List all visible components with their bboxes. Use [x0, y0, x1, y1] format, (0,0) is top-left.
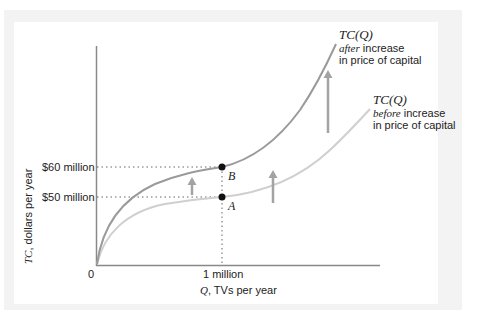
- point-a-marker: [219, 194, 226, 201]
- point-b-marker: [219, 164, 226, 171]
- point-a-label: A: [228, 200, 235, 212]
- legend-before-em: before: [373, 107, 401, 119]
- y-tick-50-million: $50 million: [42, 191, 95, 203]
- legend-after: TC(Q) after increase in price of capital: [339, 29, 422, 67]
- origin-label: 0: [88, 268, 94, 280]
- legend-before-line1: increase: [401, 107, 446, 119]
- x-tick-1-million: 1 million: [203, 268, 243, 280]
- legend-after-title: TC(Q): [339, 29, 422, 42]
- x-axis-units: , TVs per year: [208, 284, 277, 296]
- shift-arrow-small: [188, 177, 197, 195]
- point-b-label: B: [228, 170, 235, 182]
- shift-arrow-large: [324, 70, 333, 133]
- legend-before-line2: in price of capital: [373, 119, 456, 132]
- y-axis-variable: TC: [22, 251, 34, 264]
- legend-after-line1: increase: [360, 42, 405, 54]
- y-tick-60-million: $60 million: [42, 161, 95, 173]
- curve-after: [97, 44, 336, 264]
- x-axis-label: Q, TVs per year: [200, 284, 277, 296]
- x-axis-variable: Q: [200, 284, 208, 296]
- legend-before: TC(Q) before increase in price of capita…: [373, 94, 456, 132]
- y-axis-label: TC, dollars per year: [22, 169, 34, 264]
- legend-before-title: TC(Q): [373, 94, 456, 107]
- y-axis-units: , dollars per year: [22, 169, 34, 251]
- legend-after-line2: in price of capital: [339, 54, 422, 67]
- legend-after-em: after: [339, 42, 360, 54]
